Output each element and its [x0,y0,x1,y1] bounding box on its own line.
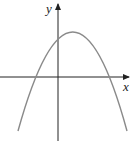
y-axis-label: y [44,1,52,16]
parabola-graph: y x [0,0,132,142]
parabola-curve [18,32,127,131]
x-axis-label: x [122,79,129,94]
